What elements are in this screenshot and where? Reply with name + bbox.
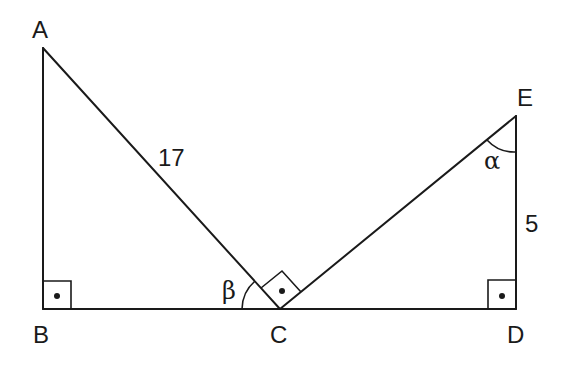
geometry-diagram: A B C D E 17 5 β α bbox=[0, 0, 566, 367]
dot-icon bbox=[499, 293, 505, 299]
vertex-label-d: D bbox=[507, 321, 524, 348]
segment-ce bbox=[280, 116, 516, 309]
vertex-label-c: C bbox=[270, 321, 287, 348]
segment-ac bbox=[43, 48, 280, 309]
length-label-ed: 5 bbox=[525, 210, 538, 237]
right-angle-marker-b bbox=[43, 281, 71, 309]
dot-icon bbox=[279, 288, 285, 294]
vertex-label-e: E bbox=[517, 84, 533, 111]
length-label-ac: 17 bbox=[158, 144, 185, 171]
vertex-label-b: B bbox=[33, 321, 49, 348]
right-angle-marker-d bbox=[488, 280, 516, 309]
angle-label-beta: β bbox=[222, 277, 236, 305]
angle-arc-beta bbox=[242, 281, 255, 309]
dot-icon bbox=[54, 293, 60, 299]
vertex-label-a: A bbox=[32, 16, 48, 43]
right-angle-marker-c bbox=[261, 271, 301, 294]
angle-label-alpha: α bbox=[484, 147, 500, 175]
